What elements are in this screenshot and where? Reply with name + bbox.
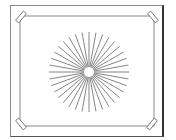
- inner-paper: [20, 16, 154, 126]
- framed-picture: [0, 0, 176, 140]
- tape-bottom-right-icon: [147, 118, 158, 130]
- tape-bottom-left-icon: [16, 118, 27, 130]
- tape-top-right-icon: [148, 11, 159, 23]
- tape-top-left-icon: [16, 11, 27, 23]
- starburst-icon: [49, 32, 129, 112]
